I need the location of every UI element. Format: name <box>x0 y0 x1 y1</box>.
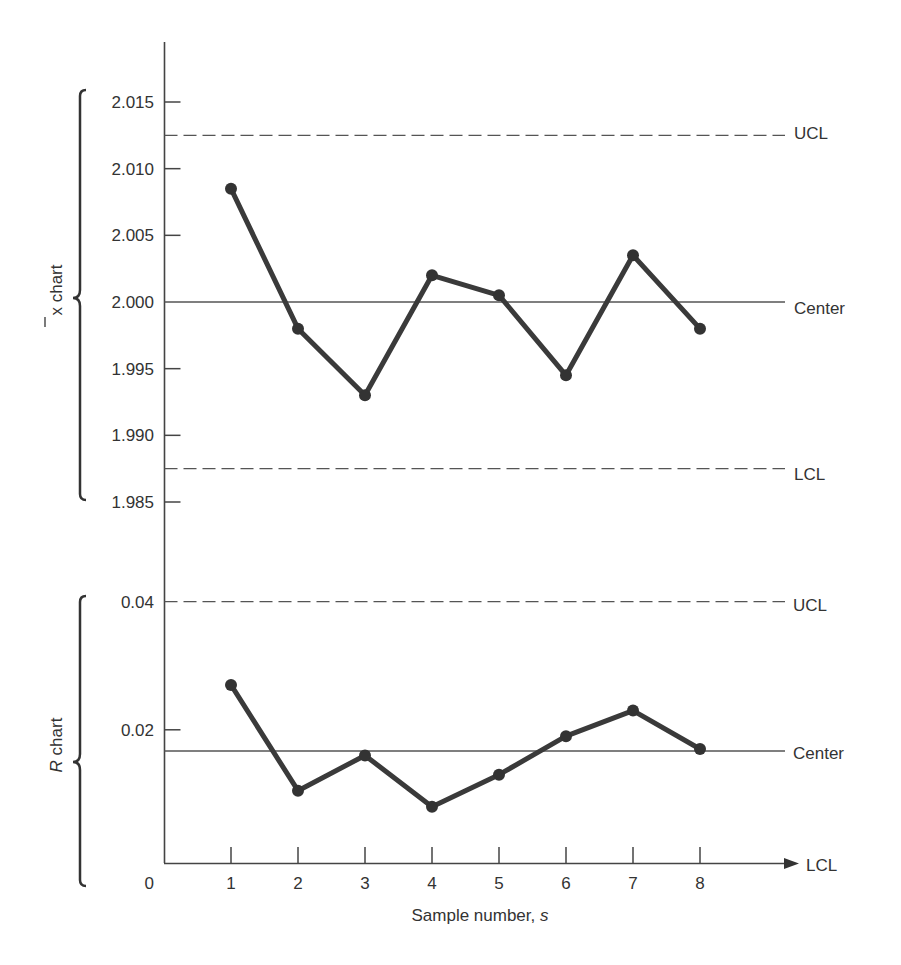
x-tick-label: 1 <box>226 874 235 893</box>
xbar-data-point <box>694 323 706 335</box>
xbar-data-point <box>292 323 304 335</box>
r-lcl-label: LCL <box>806 856 837 875</box>
r-chart-label: R chart <box>47 717 66 772</box>
r-data-point <box>225 679 237 691</box>
r-data-point <box>292 785 304 797</box>
r-data-point <box>627 705 639 717</box>
r-ucl-label: UCL <box>793 596 827 615</box>
y-tick-label: 2.015 <box>111 93 154 112</box>
y-tick-label: 2.000 <box>111 293 154 312</box>
y-tick-label: 0.04 <box>121 593 154 612</box>
xbar-data-point <box>493 289 505 301</box>
xbar-lcl-label: LCL <box>794 465 825 484</box>
y-tick-label: 1.995 <box>111 360 154 379</box>
xbar-data-point <box>627 249 639 261</box>
data-series <box>225 183 706 813</box>
x-axis-title: Sample number, s <box>411 906 549 925</box>
xbar-series-line <box>231 189 700 396</box>
y-tick-label: 0.02 <box>121 721 154 740</box>
reference-lines <box>165 135 786 751</box>
x-tick-label: 7 <box>628 874 637 893</box>
xbar-data-point <box>225 183 237 195</box>
r-y-ticks: 0.040.02 <box>121 593 181 740</box>
x-tick-label: 4 <box>427 874 436 893</box>
xbar-data-point <box>560 369 572 381</box>
x-tick-label: 3 <box>360 874 369 893</box>
xbar-data-point <box>426 269 438 281</box>
x-axis-arrow-icon <box>784 858 799 869</box>
x-tick-label: 2 <box>293 874 302 893</box>
y-tick-label: 2.005 <box>111 226 154 245</box>
x-tick-label: 6 <box>561 874 570 893</box>
xbar-bracket-icon <box>73 90 86 500</box>
r-data-point <box>493 769 505 781</box>
xbar-ucl-label: UCL <box>794 124 828 143</box>
x-tick-label: 8 <box>695 874 704 893</box>
y-tick-label: 2.010 <box>111 160 154 179</box>
x-tick-label: 5 <box>494 874 503 893</box>
xbar-chart-label: x chart <box>45 264 66 327</box>
y-tick-label: 1.985 <box>111 493 154 512</box>
control-chart: 2.0152.0102.0052.0001.9951.9901.985 0.04… <box>0 0 901 965</box>
x-ticks: 12345678 <box>226 847 704 893</box>
r-data-point <box>426 801 438 813</box>
xbar-center-label: Center <box>794 299 845 318</box>
xbar-data-point <box>359 389 371 401</box>
svg-text:x chart: x chart <box>47 264 66 315</box>
r-center-label: Center <box>793 744 844 763</box>
r-data-point <box>359 749 371 761</box>
svg-text:R chart: R chart <box>47 717 66 772</box>
r-data-point <box>560 730 572 742</box>
origin-label: 0 <box>145 874 154 893</box>
r-data-point <box>694 743 706 755</box>
r-bracket-icon <box>73 596 86 886</box>
y-tick-label: 1.990 <box>111 426 154 445</box>
